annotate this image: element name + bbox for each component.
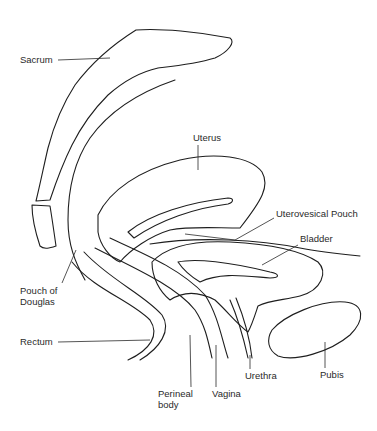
urethra-wall-1 [230, 300, 248, 358]
label-bladder: Bladder [300, 233, 333, 244]
label-perineal-body-2: body [158, 399, 179, 410]
label-pubis: Pubis [320, 369, 344, 380]
label-uterus: Uterus [193, 132, 221, 143]
label-rectum: Rectum [20, 336, 53, 347]
label-uterovesical-pouch: Uterovesical Pouch [276, 208, 358, 219]
label-sacrum: Sacrum [20, 54, 53, 65]
pelvis-diagram: Sacrum Uterus Uterovesical Pouch Bladder… [0, 0, 377, 431]
pubis-shape [269, 302, 361, 358]
label-vagina: Vagina [212, 388, 242, 399]
label-pouch-of-douglas-2: Douglas [20, 296, 55, 307]
label-perineal-body-1: Perineal [158, 388, 193, 399]
rectum-wall-inner [84, 252, 166, 360]
label-pouch-of-douglas-1: Pouch of [20, 285, 58, 296]
pelvic-wall-line [68, 80, 175, 280]
label-urethra: Urethra [245, 370, 277, 381]
vagina-wall-1 [95, 248, 212, 358]
